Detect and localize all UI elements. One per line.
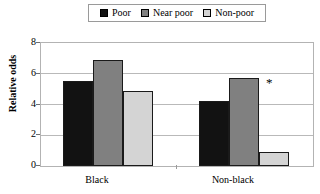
y-tick-label-0: 0: [6, 160, 36, 170]
y-tick-label-2: 2: [6, 129, 36, 139]
x-tick-label-non-black: Non-black: [203, 174, 263, 185]
chart-legend: Poor Near poor Non-poor: [88, 4, 266, 22]
legend-swatch-poor: [100, 9, 108, 17]
legend-item-near-poor: Near poor: [141, 8, 193, 18]
bar-nonblack-non-poor: [259, 152, 289, 166]
legend-item-non-poor: Non-poor: [203, 8, 254, 18]
bar-chart-figure: Poor Near poor Non-poor Relative odds 8 …: [0, 0, 320, 194]
y-axis-ticks: 8 6 4 2 0: [0, 0, 36, 194]
bar-black-poor: [63, 81, 93, 166]
x-tick-label-black: Black: [67, 174, 127, 185]
legend-label-poor: Poor: [112, 8, 131, 18]
y-tick-label-8: 8: [6, 37, 36, 47]
bar-nonblack-near-poor: [229, 78, 259, 166]
legend-label-non-poor: Non-poor: [215, 8, 254, 18]
x-group-divider-tick: [176, 165, 177, 169]
significance-asterisk: *: [266, 76, 273, 89]
bar-black-non-poor: [123, 91, 153, 166]
bar-black-near-poor: [93, 60, 123, 166]
y-tick-label-4: 4: [6, 99, 36, 109]
bar-nonblack-poor: [199, 101, 229, 166]
legend-swatch-near-poor: [141, 9, 149, 17]
legend-swatch-non-poor: [203, 9, 211, 17]
y-tick-label-6: 6: [6, 68, 36, 78]
gridline-6: [41, 73, 313, 74]
legend-item-poor: Poor: [100, 8, 131, 18]
plot-area: [40, 42, 314, 167]
legend-label-near-poor: Near poor: [153, 8, 193, 18]
